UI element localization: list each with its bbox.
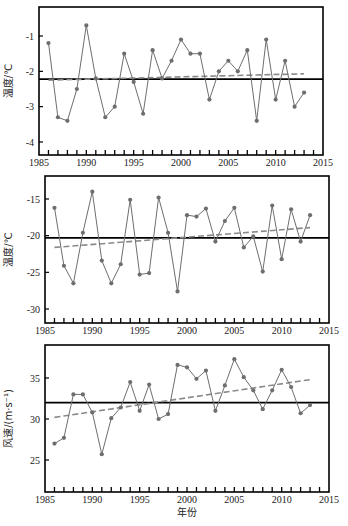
data-point-marker: [157, 417, 161, 421]
x-axis-label: 年份: [177, 506, 197, 518]
panel-2: 1985199019952000200520102015-30-25-20-15…: [2, 176, 339, 336]
data-point-marker: [270, 388, 274, 392]
data-point-marker: [194, 215, 198, 219]
data-point-marker: [204, 369, 208, 373]
data-point-marker: [100, 259, 104, 263]
data-point-marker: [62, 264, 66, 268]
data-point-marker: [81, 392, 85, 396]
data-point-marker: [141, 112, 145, 116]
data-point-marker: [128, 198, 132, 202]
data-point-marker: [94, 76, 98, 80]
y-axis-label: 温度/℃: [2, 64, 14, 99]
data-point-marker: [71, 392, 75, 396]
data-point-marker: [213, 409, 217, 413]
x-tick-label: 2000: [177, 325, 197, 336]
y-tick-label: 25: [30, 455, 40, 466]
data-point-marker: [251, 234, 255, 238]
x-tick-label: 2015: [313, 157, 333, 168]
data-point-marker: [207, 98, 211, 102]
y-tick-label: -20: [27, 230, 40, 241]
x-tick-label: 1995: [130, 325, 150, 336]
x-tick-label: 2015: [319, 325, 339, 336]
data-point-marker: [179, 37, 183, 41]
data-point-marker: [46, 41, 50, 45]
data-point-marker: [62, 436, 66, 440]
x-tick-label: 2010: [266, 157, 286, 168]
x-tick-label: 2010: [272, 325, 292, 336]
y-tick-label: -30: [27, 304, 40, 315]
observed-series-line: [55, 359, 311, 454]
data-point-marker: [226, 59, 230, 63]
data-point-marker: [217, 69, 221, 73]
data-point-marker: [132, 80, 136, 84]
data-point-marker: [166, 231, 170, 235]
x-tick-label: 2005: [224, 325, 244, 336]
data-point-marker: [56, 115, 60, 119]
data-point-marker: [90, 410, 94, 414]
data-point-marker: [185, 213, 189, 217]
data-point-marker: [280, 257, 284, 261]
y-tick-label: -25: [27, 267, 40, 278]
data-point-marker: [52, 206, 56, 210]
x-tick-label: 1985: [35, 325, 55, 336]
data-point-marker: [302, 90, 306, 94]
y-tick-label: -1: [26, 31, 34, 42]
data-point-marker: [245, 48, 249, 52]
y-tick-label: -2: [26, 66, 34, 77]
data-point-marker: [289, 207, 293, 211]
data-point-marker: [261, 270, 265, 274]
data-point-marker: [261, 407, 265, 411]
data-point-marker: [308, 403, 312, 407]
data-point-marker: [75, 87, 79, 91]
data-point-marker: [147, 382, 151, 386]
x-tick-label: 1990: [82, 325, 102, 336]
figure: 1985199019952000200520102015-4-3-2-1温度/℃…: [0, 0, 348, 526]
x-tick-label: 2000: [171, 157, 191, 168]
data-point-marker: [185, 365, 189, 369]
data-point-marker: [308, 213, 312, 217]
x-tick-label: 1995: [130, 494, 150, 505]
x-tick-label: 1990: [76, 157, 96, 168]
data-point-marker: [119, 405, 123, 409]
data-point-marker: [128, 380, 132, 384]
y-tick-label: -3: [26, 101, 34, 112]
data-point-marker: [169, 59, 173, 63]
y-tick-label: 35: [30, 373, 40, 384]
data-point-marker: [232, 206, 236, 210]
data-point-marker: [175, 289, 179, 293]
x-tick-label: 1990: [82, 494, 102, 505]
data-point-marker: [280, 368, 284, 372]
y-tick-label: -4: [26, 137, 34, 148]
data-point-marker: [274, 98, 278, 102]
data-point-marker: [147, 271, 151, 275]
data-point-marker: [236, 69, 240, 73]
data-point-marker: [223, 383, 227, 387]
data-point-marker: [157, 195, 161, 199]
data-point-marker: [299, 239, 303, 243]
data-point-marker: [255, 119, 259, 123]
y-axis-label: 风速/(m·s⁻¹): [3, 389, 14, 448]
x-tick-label: 2005: [224, 494, 244, 505]
data-point-marker: [90, 190, 94, 194]
data-point-marker: [81, 231, 85, 235]
data-point-marker: [100, 452, 104, 456]
data-point-marker: [113, 105, 117, 109]
data-point-marker: [103, 115, 107, 119]
chart-canvas: 1985199019952000200520102015-4-3-2-1温度/℃…: [0, 0, 348, 526]
data-point-marker: [119, 262, 123, 266]
data-point-marker: [204, 206, 208, 210]
y-tick-label: 30: [30, 414, 40, 425]
data-point-marker: [109, 416, 113, 420]
plot-frame: [45, 176, 329, 323]
data-point-marker: [188, 52, 192, 56]
x-tick-label: 1985: [35, 494, 55, 505]
data-point-marker: [293, 105, 297, 109]
x-tick-label: 2000: [177, 494, 197, 505]
data-point-marker: [138, 409, 142, 413]
y-axis-label: 温度/℃: [2, 232, 14, 267]
data-point-marker: [289, 385, 293, 389]
data-point-marker: [122, 52, 126, 56]
data-point-marker: [223, 219, 227, 223]
data-point-marker: [194, 377, 198, 381]
data-point-marker: [198, 52, 202, 56]
